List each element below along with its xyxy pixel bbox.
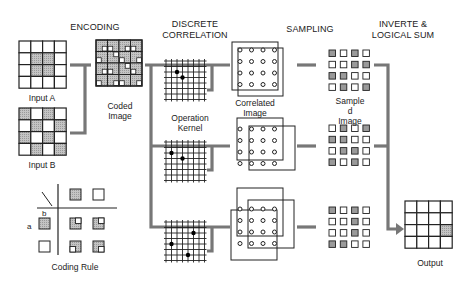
- coded-image: [96, 40, 142, 86]
- label-correlated-image: Correlated Image: [225, 98, 285, 118]
- header-sampling: SAMPLING: [275, 24, 345, 35]
- label-input-b: Input B: [12, 160, 72, 170]
- header-discrete-correlation: DISCRETE CORRELATION: [155, 19, 235, 41]
- label-output: Output: [400, 258, 460, 268]
- coding-rule-a-label: a: [27, 222, 32, 231]
- label-sampled-image: Sample d Image: [325, 96, 375, 126]
- header-encoding: ENCODING: [55, 22, 135, 33]
- label-coding-rule: Coding Rule: [40, 262, 110, 272]
- sampled-image-3: [329, 207, 369, 247]
- label-input-a: Input A: [12, 93, 72, 103]
- input-b-cells: [19, 108, 66, 155]
- coding-rule-b-label: b: [42, 209, 47, 218]
- input-a-grid: [19, 41, 66, 88]
- label-operation-kernel: Operation Kernel: [160, 113, 220, 133]
- header-inverte-logical-sum: INVERTE & LOGICAL SUM: [363, 19, 443, 41]
- diagram-canvas: a b: [0, 0, 471, 286]
- coding-rule-table: [37, 184, 117, 255]
- sampled-image-2: [329, 125, 369, 165]
- label-coded-image: Coded Image: [92, 101, 148, 121]
- output-cells: [405, 201, 452, 248]
- sampled-images: [329, 50, 369, 247]
- input-b-grid: [19, 108, 66, 155]
- sampled-image-1: [329, 50, 369, 90]
- output-grid: [405, 201, 452, 248]
- input-a-cells: [19, 41, 66, 88]
- correlated-images: [231, 42, 295, 260]
- operation-kernels: [164, 59, 207, 263]
